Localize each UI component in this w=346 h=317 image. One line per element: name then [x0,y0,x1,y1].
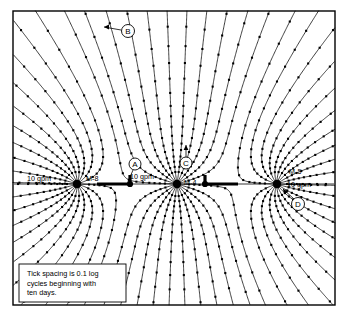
flow-tick [164,179,166,181]
flow-tick [71,194,73,196]
flow-tick [14,209,16,211]
flow-tick [102,156,104,158]
flow-tick [75,156,77,158]
flow-tick [215,131,217,133]
flow-tick [78,195,80,197]
flow-tick [68,66,70,68]
flow-tick [269,167,271,169]
flow-tick [318,288,320,290]
flow-tick [131,108,133,110]
flow-tick [194,248,196,250]
flow-tick [261,218,263,220]
flow-tick [54,141,56,143]
marker-d-label: D [295,200,301,209]
flow-tick [251,57,253,59]
flow-tick [64,186,66,188]
flow-tick [155,190,157,192]
flow-tick [256,173,258,175]
flow-tick [33,47,35,49]
flow-tick [39,201,41,203]
flow-tick [284,157,286,159]
flow-tick [85,56,87,58]
flow-tick [166,157,168,159]
flow-tick [77,205,79,207]
flow-tick [130,214,132,216]
flow-tick [147,123,149,125]
axis-tick [66,183,68,185]
flow-tick [195,107,197,109]
flow-tick [178,195,180,197]
flow-tick [270,244,272,246]
flow-tick [53,244,55,246]
flow-tick [217,54,219,56]
flow-tick [83,157,85,159]
flow-tick [272,144,274,146]
flow-tick [198,286,200,288]
flow-tick [142,181,144,183]
flow-tick [154,149,156,151]
flow-tick [189,221,191,223]
flow-tick [180,223,182,225]
flow-tick [83,162,85,164]
flow-tick [159,178,161,180]
flow-tick [275,137,277,139]
axis-tick [44,183,46,185]
flow-tick [304,135,306,137]
flow-tick [29,193,31,195]
flow-tick [91,205,93,207]
flow-tick [260,176,262,178]
flow-tick [143,266,145,268]
flow-tick [91,148,93,150]
flow-tick [274,171,276,173]
flow-tick [126,13,128,15]
flow-tick [280,216,282,218]
flow-tick [264,195,266,197]
flow-tick [110,187,112,189]
flow-tick [284,174,286,176]
flow-tick [282,204,284,206]
flow-tick [75,210,77,212]
flow-tick [164,151,166,153]
flow-tick [139,199,141,201]
flow-tick [306,198,308,200]
flow-tick [281,101,283,103]
flow-tick [198,149,200,151]
flow-tick [212,86,214,88]
flow-tick [244,124,246,126]
flow-tick [281,194,283,196]
flow-tick [166,190,168,192]
flow-tick [253,182,255,184]
flow-tick [215,235,217,237]
flow-tick [93,36,95,38]
flow-tick [255,237,257,239]
flow-tick [292,219,294,221]
flow-tick [241,240,243,242]
flow-tick [188,215,190,217]
flow-tick [74,171,76,173]
flow-tick [185,26,187,28]
flow-tick [46,198,48,200]
flow-tick [145,112,147,114]
flow-tick [278,171,280,173]
flow-tick [78,200,80,202]
flow-tick [275,229,277,231]
flow-tick [161,229,163,231]
flow-tick [276,80,278,82]
flow-tick [54,177,56,179]
flow-tick [201,48,203,50]
flow-tick [302,161,304,163]
flow-tick [332,221,334,223]
flow-tick [266,234,268,236]
flow-tick [237,227,239,229]
flow-tick [167,45,169,47]
flow-tick [164,215,166,217]
flow-tick [267,191,269,193]
flow-tick [206,210,208,212]
flow-tick [65,228,67,230]
flow-tick [76,229,78,231]
flow-tick [194,196,196,198]
flow-tick [140,86,142,88]
flow-tick [280,150,282,152]
flow-tick [284,66,286,68]
flow-tick [325,95,327,97]
